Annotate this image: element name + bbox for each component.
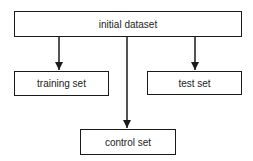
node-initial-dataset: initial dataset [14,11,242,37]
node-label: initial dataset [99,19,157,30]
node-label: training set [37,78,86,89]
node-test-set: test set [147,71,242,95]
node-label: test set [178,78,210,89]
node-control-set: control set [80,129,176,155]
arrowhead-test-icon [191,62,199,70]
node-label: control set [105,137,151,148]
node-training-set: training set [14,71,109,96]
arrowhead-training-icon [55,62,63,70]
arrowhead-control-icon [123,120,131,128]
